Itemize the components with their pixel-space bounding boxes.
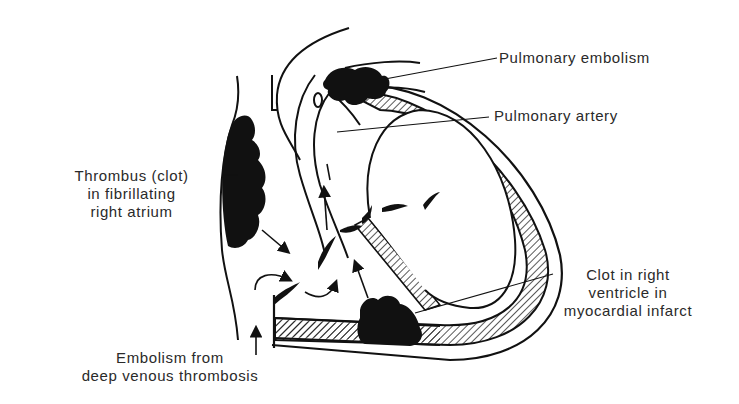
label-clot-ventricle-line3: myocardial infarct	[538, 302, 718, 320]
label-thrombus-atrium-line2: in fibrillating	[44, 185, 219, 203]
label-clot-ventricle-line2: ventricle in	[538, 284, 718, 302]
ventricular-clot	[357, 296, 422, 346]
heart-diagram: Pulmonary embolism Pulmonary artery Thro…	[0, 0, 739, 404]
label-pulmonary-artery: Pulmonary artery	[494, 107, 618, 125]
label-pulmonary-embolism: Pulmonary embolism	[499, 49, 650, 67]
atrial-thrombus-clot	[222, 115, 265, 248]
label-embolism-dvt-line2: deep venous thrombosis	[50, 367, 290, 385]
label-embolism-dvt-line1: Embolism from	[50, 349, 290, 367]
label-clot-ventricle: Clot in right ventricle in myocardial in…	[538, 266, 718, 320]
label-embolism-dvt: Embolism from deep venous thrombosis	[50, 349, 290, 385]
label-thrombus-atrium: Thrombus (clot) in fibrillating right at…	[44, 167, 219, 221]
label-thrombus-atrium-line1: Thrombus (clot)	[44, 167, 219, 185]
label-thrombus-atrium-line3: right atrium	[44, 203, 219, 221]
label-clot-ventricle-line1: Clot in right	[538, 266, 718, 284]
